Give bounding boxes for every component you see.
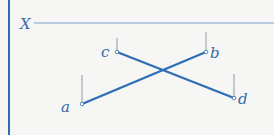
point-a [80,102,84,106]
label-a: a [61,98,70,116]
label-c: c [101,43,110,61]
point-d [232,96,236,100]
diagram-canvas: X a b c d [0,0,274,135]
label-b: b [210,44,220,62]
axis-label-x: X [19,15,32,33]
point-b [204,50,208,54]
point-c [115,50,119,54]
label-d: d [238,90,248,108]
